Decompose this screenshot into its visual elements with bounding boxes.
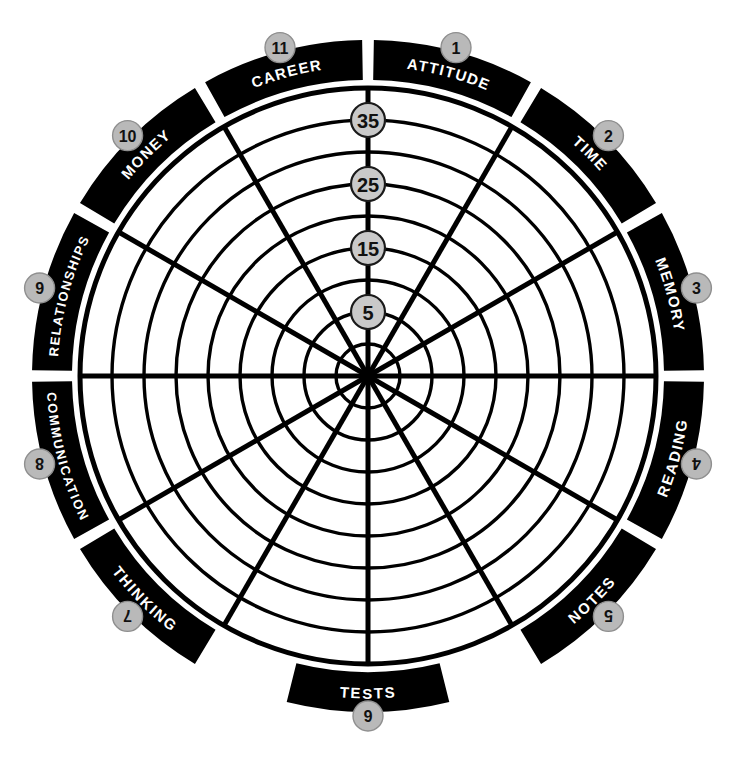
- scale-badge-5: 5: [351, 295, 385, 329]
- scale-badge-35: 35: [351, 103, 385, 137]
- badge-number: 10: [119, 128, 137, 145]
- badge-number: 1: [452, 40, 461, 57]
- sector-number-badge-6[interactable]: 6: [353, 701, 383, 731]
- sector-number-badge-11[interactable]: 11: [265, 33, 295, 63]
- sector-number-badge-1[interactable]: 1: [441, 33, 471, 63]
- scale-badge-25: 25: [351, 167, 385, 201]
- sector-number-badge-9[interactable]: 9: [25, 273, 55, 303]
- badge-number: 6: [363, 707, 372, 724]
- badge-number: 11: [272, 40, 289, 57]
- wheel-chart-stage: ATTITUDETIMEMEMORYREADINGNOTESTESTSTHINK…: [0, 0, 733, 766]
- sector-number-badge-5[interactable]: 5: [593, 601, 623, 631]
- badge-number: 7: [123, 607, 132, 624]
- badge-number: 4: [692, 455, 701, 472]
- sector-number-badge-4[interactable]: 4: [681, 449, 711, 479]
- sector-number-badge-7[interactable]: 7: [113, 601, 143, 631]
- scale-badge-value: 25: [357, 174, 379, 196]
- badge-number: 5: [604, 607, 613, 624]
- sector-label-tests: TESTS: [339, 683, 397, 701]
- sector-number-badge-2[interactable]: 2: [593, 121, 623, 151]
- sector-number-badge-3[interactable]: 3: [681, 273, 711, 303]
- scale-badge-value: 5: [362, 302, 373, 324]
- scale-badge-15: 15: [351, 231, 385, 265]
- badge-number: 9: [35, 280, 44, 297]
- sector-number-badge-10[interactable]: 10: [113, 121, 143, 151]
- life-skills-wheel-chart: ATTITUDETIMEMEMORYREADINGNOTESTESTSTHINK…: [0, 0, 733, 766]
- badge-number: 2: [604, 128, 613, 145]
- badge-number: 3: [692, 280, 701, 297]
- sector-number-badge-8[interactable]: 8: [25, 449, 55, 479]
- scale-badge-value: 35: [357, 110, 379, 132]
- scale-badge-value: 15: [357, 238, 379, 260]
- badge-number: 8: [35, 455, 44, 472]
